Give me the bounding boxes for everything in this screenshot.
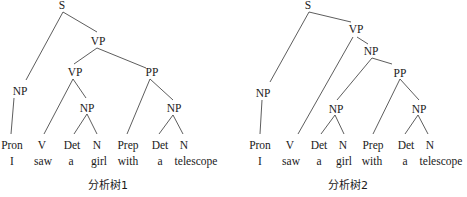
leaf-word: saw [34, 155, 52, 167]
leaf-pos: N [93, 139, 101, 151]
node-np-complex: NP [364, 45, 379, 57]
leaf-pos: N [180, 139, 188, 151]
leaf-pos: Prep [362, 139, 383, 151]
leaf-word: a [402, 155, 407, 167]
node-pp: PP [394, 67, 407, 79]
leaf-word: a [157, 155, 162, 167]
leaf-pos: Det [311, 139, 328, 151]
node-pp: PP [146, 66, 159, 78]
leaf-word: telescope [420, 155, 463, 167]
leaf-word: with [362, 155, 382, 167]
node-s: S [305, 0, 311, 11]
tree-caption: 分析树1 [88, 180, 128, 192]
leaf-pos: Pron [1, 139, 23, 151]
node-np-object: NP [329, 103, 344, 115]
leaf-word: a [68, 155, 73, 167]
parse-tree-edges [0, 0, 467, 197]
node-np-pp: NP [412, 103, 427, 115]
leaf-word: telescope [175, 155, 218, 167]
leaf-pos: V [286, 139, 294, 151]
tree-caption: 分析树2 [328, 180, 368, 192]
node-vp: VP [91, 35, 106, 47]
node-s: S [59, 0, 65, 11]
leaf-word: saw [282, 155, 300, 167]
leaf-word: I [258, 155, 262, 167]
leaf-word: girl [336, 155, 352, 167]
node-vp: VP [349, 23, 364, 35]
leaf-pos: N [426, 139, 434, 151]
leaf-pos: Det [64, 139, 81, 151]
leaf-pos: V [38, 139, 46, 151]
node-np-subject: NP [13, 85, 28, 97]
leaf-pos: N [339, 139, 347, 151]
leaf-pos: Det [152, 139, 169, 151]
node-np-subject: NP [256, 87, 271, 99]
leaf-word: I [10, 155, 14, 167]
node-vp-inner: VP [68, 66, 83, 78]
leaf-word: with [118, 155, 138, 167]
leaf-pos: Det [398, 139, 415, 151]
leaf-word: a [316, 155, 321, 167]
leaf-pos: Prep [117, 139, 138, 151]
leaf-pos: Pron [249, 139, 271, 151]
node-np-pp: NP [167, 102, 182, 114]
leaf-word: girl [91, 155, 107, 167]
node-np-object: NP [80, 102, 95, 114]
